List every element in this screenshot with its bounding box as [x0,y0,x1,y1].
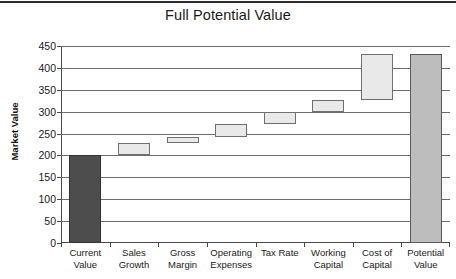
chart-title: Full Potential Value [0,7,456,23]
x-label-line: Capital [304,259,353,271]
x-label-line: Value [401,259,450,271]
gridline [61,46,450,47]
x-label-line: Potential [401,247,450,259]
bar-current-value [69,155,101,243]
y-tick-mark [57,134,61,135]
gridline [61,199,450,200]
y-axis-title: Market Value [9,87,20,177]
gridline [61,134,450,135]
y-tick-label: 400 [38,62,56,74]
x-axis-labels: CurrentValueSalesGrowthGrossMarginOperat… [61,247,450,279]
bar-sales-growth [118,143,150,155]
x-label-line: Sales [110,247,159,259]
x-label-line: Margin [158,259,207,271]
bar-gross-margin [167,137,199,144]
y-tick-label: 200 [38,149,56,161]
x-axis-label: WorkingCapital [304,247,353,270]
x-axis-label: PotentialValue [401,247,450,270]
y-tick-mark [57,68,61,69]
y-tick-mark [57,155,61,156]
y-tick-label: 50 [44,215,56,227]
plot-area: 450400350300250200150100500 [61,46,450,243]
x-label-line: Growth [110,259,159,271]
x-axis-label: Cost ofCapital [353,247,402,270]
y-tick-label: 350 [38,84,56,96]
gridline [61,221,450,222]
gridline [61,112,450,113]
x-label-line: Capital [353,259,402,271]
x-axis-label: GrossMargin [158,247,207,270]
bar-cost-of-capital [361,54,393,100]
y-tick-mark [57,177,61,178]
y-tick-label: 0 [50,237,56,249]
y-tick-mark [57,112,61,113]
top-divider [0,1,456,3]
y-tick-mark [57,199,61,200]
x-label-line: Cost of [353,247,402,259]
gridline [61,177,450,178]
x-label-line: Tax Rate [256,247,305,259]
x-axis-label: OperatingExpenses [207,247,256,270]
gridline [61,155,450,156]
y-tick-mark [57,90,61,91]
x-label-line: Gross [158,247,207,259]
chart-container: Full Potential Value Market Value 450400… [0,0,456,279]
bar-potential-value [410,54,442,243]
x-axis-label: Tax Rate [256,247,305,259]
x-label-line: Expenses [207,259,256,271]
bar-tax-rate [264,112,296,124]
x-axis-label: SalesGrowth [110,247,159,270]
y-tick-label: 150 [38,171,56,183]
y-tick-mark [57,221,61,222]
x-label-line: Current [61,247,110,259]
y-tick-label: 100 [38,193,56,205]
x-label-line: Value [61,259,110,271]
y-tick-label: 450 [38,40,56,52]
x-label-line: Operating [207,247,256,259]
y-tick-mark [57,46,61,47]
x-label-line: Working [304,247,353,259]
y-tick-label: 250 [38,128,56,140]
bar-working-capital [312,100,344,112]
x-axis-label: CurrentValue [61,247,110,270]
bar-operating-expenses [215,124,247,137]
y-tick-label: 300 [38,106,56,118]
